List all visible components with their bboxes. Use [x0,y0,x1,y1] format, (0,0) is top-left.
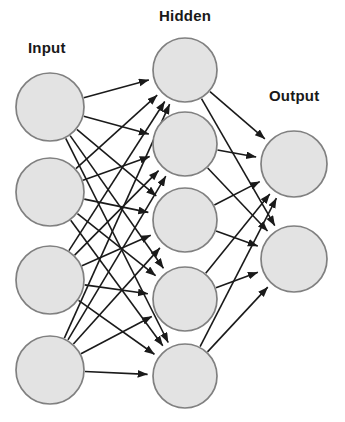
hidden-layer-label: Hidden [159,8,211,23]
input-layer-nodes [16,73,84,404]
edge-input-hidden-1-1 [84,80,149,98]
edge-input-hidden-3-4 [85,285,148,294]
input-node-4 [16,336,84,404]
edge-hidden-output-3-1 [214,182,259,205]
edge-input-hidden-3-1 [69,102,165,251]
hidden-node-2 [153,112,217,176]
edge-input-hidden-3-5 [79,300,155,354]
neural-network-diagram: Input Hidden Output [0,0,345,422]
hidden-node-3 [153,188,217,252]
output-layer-nodes [261,131,327,292]
edge-input-hidden-4-3 [73,248,160,344]
input-node-1 [16,73,84,141]
edge-hidden-output-3-2 [216,231,258,246]
input-node-2 [16,158,84,226]
output-layer-label: Output [269,88,319,103]
edge-input-hidden-4-5 [85,372,148,375]
edge-hidden-output-1-1 [210,92,265,139]
edge-hidden-output-4-1 [206,194,270,273]
hidden-node-1 [153,38,217,102]
output-node-2 [261,226,327,292]
hidden-node-4 [153,267,217,331]
hidden-layer-nodes [153,38,217,408]
input-layer-label: Input [28,40,66,55]
edge-hidden-output-2-1 [217,150,256,157]
hidden-node-5 [153,344,217,408]
input-node-3 [16,246,84,314]
network-canvas [0,0,345,422]
edge-input-hidden-4-4 [81,316,152,353]
output-node-1 [261,131,327,197]
